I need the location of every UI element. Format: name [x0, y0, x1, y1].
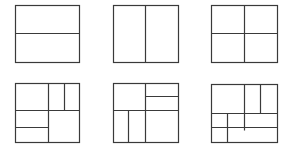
- layouts-group: [16, 6, 278, 143]
- layout-diagram-canvas: [0, 0, 285, 148]
- layout-panel-4: [16, 84, 80, 143]
- layout-panel-5: [114, 84, 179, 143]
- layout-panel-6: [212, 85, 278, 143]
- layout-panel-3: [212, 6, 278, 63]
- layout-panel-2: [114, 6, 179, 63]
- layout-panel-1: [16, 6, 80, 63]
- panel-outline: [16, 84, 80, 143]
